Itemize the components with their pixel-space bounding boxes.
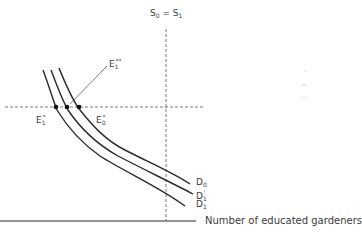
artifact: [300, 97, 308, 98]
e1-doublestar-leader: [70, 66, 107, 104]
demand-curve-d1: [43, 70, 185, 206]
demand-curve-d0: [59, 68, 190, 184]
supply-label: S0 = S1: [150, 9, 182, 19]
equilibrium-e1-star-label: E1*: [36, 114, 46, 126]
demand-label-d1: D1: [196, 200, 207, 210]
equilibrium-e1-star-dot: [54, 105, 59, 110]
x-axis-label: Number of educated gardeners: [205, 216, 362, 226]
equilibrium-e1-doublestar-label: E1**: [109, 58, 122, 70]
equilibrium-e0-star-dot: [77, 105, 82, 110]
artifact: [302, 84, 306, 86]
demand-label-d0: D0: [196, 178, 207, 188]
artifact: [304, 70, 307, 72]
equilibrium-e1-doublestar-dot: [65, 105, 70, 110]
equilibrium-e0-star-label: E0*: [96, 114, 106, 126]
